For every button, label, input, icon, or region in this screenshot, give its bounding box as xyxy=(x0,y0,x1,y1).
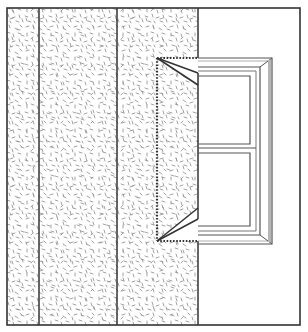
wall-window-diagram: Wall section with window opening and spl… xyxy=(0,0,308,332)
wall-texture xyxy=(7,8,198,325)
diagram-canvas xyxy=(0,0,308,332)
